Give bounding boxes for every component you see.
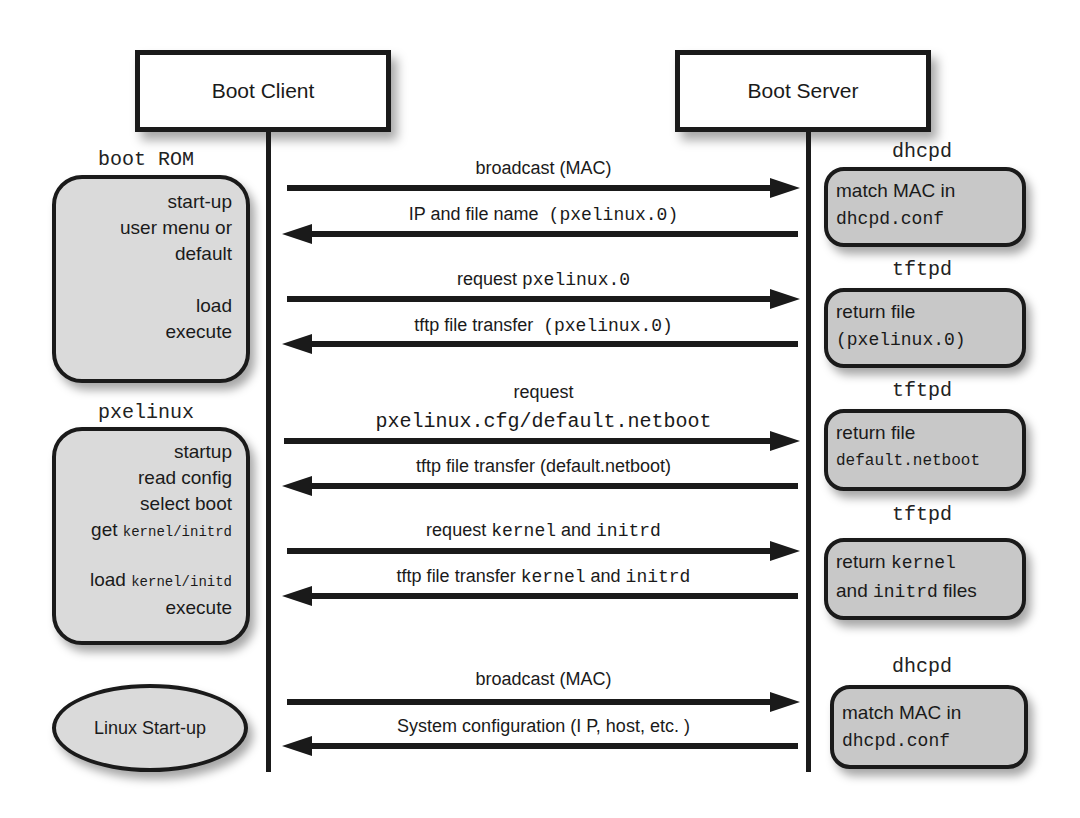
step-mono: dhcpd.conf <box>842 727 1016 755</box>
step-get: get kernel/initrd <box>62 517 232 545</box>
step-text: startup <box>62 439 232 465</box>
step-text: return file <box>836 419 1014 447</box>
boot-rom-box: start-up user menu or default load execu… <box>52 175 250 383</box>
msg-text: tftp file transfer <box>397 566 516 586</box>
daemon-label: tftpd <box>892 503 952 526</box>
msg-label-7: request kernel and initrd <box>287 520 800 541</box>
arrow-right-5 <box>287 692 800 712</box>
msg-label-10: System configuration (I P, host, etc. ) <box>287 716 800 737</box>
step-mono: kernel/initrd <box>123 524 232 540</box>
daemon-label: dhcpd <box>892 140 952 163</box>
step-text: get <box>91 519 117 540</box>
msg-text: broadcast (MAC) <box>475 669 611 689</box>
server-step-box: match MAC in dhcpd.conf <box>824 167 1026 247</box>
msg-label-8: tftp file transfer kernel and initrd <box>287 566 800 587</box>
step-text: and <box>836 580 868 601</box>
step-text: return file <box>836 298 1014 326</box>
msg-label-9: broadcast (MAC) <box>287 669 800 690</box>
daemon-label: tftpd <box>892 258 952 281</box>
msg-mono: (pxelinux.0) <box>543 316 673 336</box>
msg-text: and <box>561 520 591 540</box>
step-text: files <box>943 580 977 601</box>
step-text: return <box>836 551 886 572</box>
msg-text: broadcast (MAC) <box>475 158 611 178</box>
msg-label-5: request pxelinux.cfg/default.netboot <box>287 377 800 437</box>
step-text: execute <box>62 319 232 345</box>
msg-mono: pxelinux.cfg/default.netboot <box>287 407 800 437</box>
msg-text: IP and file name <box>409 204 539 224</box>
linux-startup-ellipse: Linux Start-up <box>52 684 248 772</box>
msg-text: request <box>426 520 486 540</box>
msg-mono: initrd <box>596 521 661 541</box>
arrow-left-3 <box>282 476 798 496</box>
step-mono: kernel <box>891 553 956 573</box>
arrow-right-1 <box>287 178 800 198</box>
step-text: match MAC in <box>842 699 1016 727</box>
msg-text: tftp file transfer <box>414 315 533 335</box>
arrow-left-4 <box>282 586 798 606</box>
phase-label-boot-rom: boot ROM <box>98 148 194 171</box>
step-mono: kernel/initd <box>131 574 232 590</box>
msg-mono: pxelinux.0 <box>522 270 630 290</box>
msg-text: and <box>591 566 621 586</box>
arrow-left-1 <box>282 224 798 244</box>
msg-mono: kernel <box>491 521 556 541</box>
step-text: read config <box>62 465 232 491</box>
msg-label-4: tftp file transfer (pxelinux.0) <box>287 315 800 336</box>
pxelinux-box: startup read config select boot get kern… <box>52 427 250 645</box>
msg-text: System configuration (I P, host, etc. ) <box>397 716 690 736</box>
msg-mono: initrd <box>626 567 691 587</box>
step-mono: initrd <box>873 582 938 602</box>
arrow-left-2 <box>282 334 798 354</box>
msg-mono: kernel <box>521 567 586 587</box>
step-line: return kernel <box>836 548 1014 577</box>
server-step-box: return file default.netboot <box>824 409 1026 491</box>
arrow-left-5 <box>282 736 798 756</box>
daemon-label: tftpd <box>892 379 952 402</box>
step-load: load kernel/initd <box>62 567 232 595</box>
step-mono: default.netboot <box>836 447 1014 475</box>
step-text: match MAC in <box>836 177 1014 205</box>
arrow-right-4 <box>287 541 800 561</box>
server-step-box: match MAC in dhcpd.conf <box>830 685 1028 769</box>
server-step-box: return file (pxelinux.0) <box>824 288 1026 368</box>
msg-label-6: tftp file transfer (default.netboot) <box>287 456 800 477</box>
step-text: load <box>62 293 232 319</box>
step-mono: dhcpd.conf <box>836 205 1014 233</box>
step-text: load <box>90 569 126 590</box>
msg-label-2: IP and file name (pxelinux.0) <box>287 204 800 225</box>
step-text: select boot <box>62 491 232 517</box>
linux-startup-label: Linux Start-up <box>94 718 206 739</box>
step-text: default <box>62 241 232 267</box>
step-text: user menu or <box>62 215 232 241</box>
msg-mono: (pxelinux.0) <box>549 205 679 225</box>
step-text: start-up <box>62 189 232 215</box>
arrow-right-2 <box>287 289 800 309</box>
server-step-box: return kernel and initrd files <box>824 538 1026 620</box>
msg-text: tftp file transfer (default.netboot) <box>416 456 671 476</box>
msg-label-1: broadcast (MAC) <box>287 158 800 179</box>
msg-text: request <box>287 377 800 407</box>
phase-label-pxelinux: pxelinux <box>98 401 194 424</box>
msg-text: request <box>457 269 517 289</box>
step-mono: (pxelinux.0) <box>836 326 1014 354</box>
msg-label-3: request pxelinux.0 <box>287 269 800 290</box>
daemon-label: dhcpd <box>892 655 952 678</box>
step-line: and initrd files <box>836 577 1014 606</box>
step-text: execute <box>62 595 232 621</box>
